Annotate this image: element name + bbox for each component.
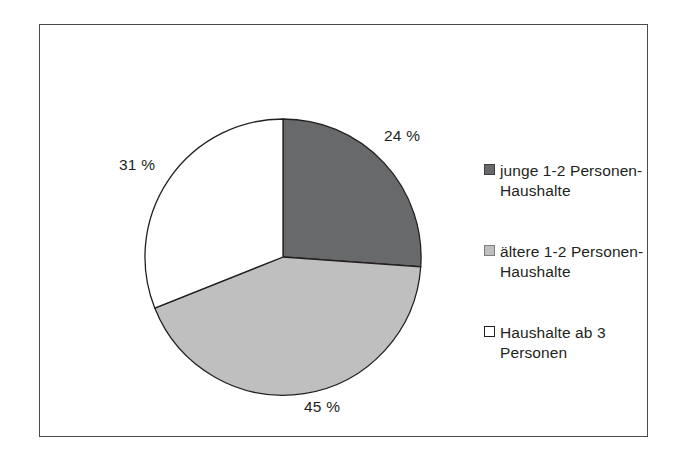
- legend-label-line1: ältere 1-2 Personen-: [484, 242, 674, 262]
- legend-label-line2: Haushalte: [484, 181, 674, 201]
- light-gray-swatch-icon: [484, 245, 495, 256]
- dark-gray-swatch-icon: [484, 164, 495, 175]
- legend-label-line1: junge 1-2 Personen-: [484, 161, 674, 181]
- legend-label-line2: Haushalte: [484, 262, 674, 282]
- legend-item-haushalte-ab-3-personen: Haushalte ab 3 Personen: [484, 323, 674, 363]
- pie-chart-figure: 24 % 31 % 45 % junge 1-2 Personen- Haush…: [0, 0, 676, 460]
- pie-svg: [144, 118, 422, 396]
- pie-label-45-percent: 45 %: [304, 398, 340, 416]
- chart-frame-border: 24 % 31 % 45 % junge 1-2 Personen- Haush…: [39, 24, 648, 437]
- legend-item-aeltere-1-2-personen-haushalte: ältere 1-2 Personen- Haushalte: [484, 242, 674, 282]
- pie-chart: [144, 118, 422, 396]
- pie-label-24-percent: 24 %: [384, 127, 420, 145]
- pie-label-31-percent: 31 %: [119, 156, 155, 174]
- legend-label-line2: Personen: [484, 343, 674, 363]
- chart-legend: junge 1-2 Personen- Haushalte ältere 1-2…: [484, 161, 674, 363]
- white-swatch-icon: [484, 326, 495, 337]
- legend-label-line1: Haushalte ab 3: [484, 323, 674, 343]
- legend-item-junge-1-2-personen-haushalte: junge 1-2 Personen- Haushalte: [484, 161, 674, 201]
